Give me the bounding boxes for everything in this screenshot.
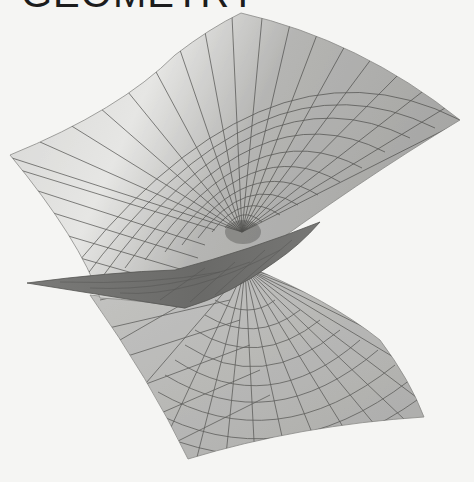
page: GEOMETRY — [0, 0, 474, 482]
surface-figure — [0, 0, 474, 482]
